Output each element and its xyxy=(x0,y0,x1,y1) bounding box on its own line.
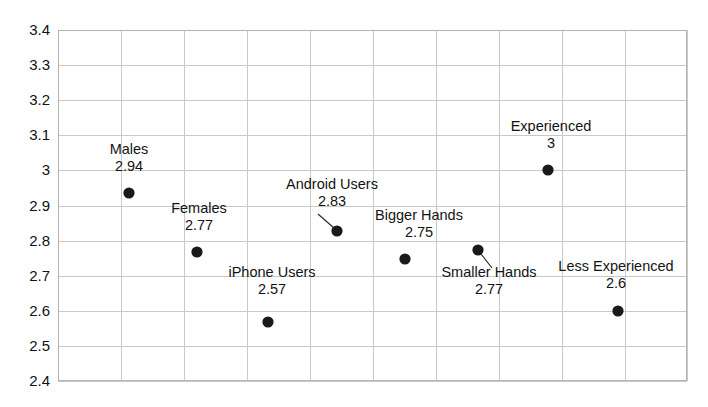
y-axis-tick-label: 2.9 xyxy=(4,198,50,213)
y-axis-tick-label: 2.7 xyxy=(4,268,50,283)
scatter-chart: 3.43.33.23.132.92.82.72.62.52.4 Males2.9… xyxy=(0,0,708,407)
data-point-label-value: 3 xyxy=(511,135,592,152)
data-point-label-name: Smaller Hands xyxy=(441,264,536,281)
data-point-label: Bigger Hands2.75 xyxy=(375,207,463,241)
data-point-marker[interactable] xyxy=(472,244,483,255)
data-point-marker[interactable] xyxy=(262,316,273,327)
data-point-marker[interactable] xyxy=(191,246,202,257)
data-point-label-value: 2.77 xyxy=(171,217,227,234)
data-point-label-name: Less Experienced xyxy=(558,258,673,275)
y-axis-tick-label: 3 xyxy=(4,162,50,177)
y-axis-tick-label: 3.2 xyxy=(4,92,50,107)
data-point-label: Females2.77 xyxy=(171,200,227,234)
y-axis-tick-label: 3.4 xyxy=(4,22,50,37)
data-point-label: Males2.94 xyxy=(110,141,149,175)
data-point-label-name: Android Users xyxy=(286,176,378,193)
data-point-marker[interactable] xyxy=(331,225,342,236)
data-point-marker[interactable] xyxy=(612,305,623,316)
data-point-label: Experienced3 xyxy=(511,118,592,152)
data-point-label: Android Users2.83 xyxy=(286,176,378,210)
data-point-marker[interactable] xyxy=(542,164,553,175)
data-point-marker[interactable] xyxy=(399,253,410,264)
y-axis-tick-label: 2.5 xyxy=(4,338,50,353)
data-point-label-value: 2.75 xyxy=(375,224,463,241)
data-point-label: Less Experienced2.6 xyxy=(558,258,673,292)
y-axis-tick-label: 3.3 xyxy=(4,57,50,72)
data-point-label-name: Experienced xyxy=(511,118,592,135)
data-point-label-value: 2.6 xyxy=(558,275,673,292)
y-axis-tick-label: 2.4 xyxy=(4,373,50,388)
y-axis-tick-label: 2.6 xyxy=(4,303,50,318)
data-point-label-value: 2.77 xyxy=(441,281,536,298)
data-point-label-name: Males xyxy=(110,141,149,158)
data-point-label-value: 2.57 xyxy=(228,281,315,298)
data-point-label: Smaller Hands2.77 xyxy=(441,264,536,298)
data-point-marker[interactable] xyxy=(123,187,134,198)
data-point-label-name: iPhone Users xyxy=(228,264,315,281)
y-axis-tick-label: 3.1 xyxy=(4,127,50,142)
data-point-label: iPhone Users2.57 xyxy=(228,264,315,298)
data-point-label-value: 2.94 xyxy=(110,158,149,175)
y-axis-tick-label: 2.8 xyxy=(4,233,50,248)
data-point-label-name: Bigger Hands xyxy=(375,207,463,224)
data-point-label-value: 2.83 xyxy=(286,193,378,210)
data-point-label-name: Females xyxy=(171,200,227,217)
label-leader-line xyxy=(318,214,334,228)
